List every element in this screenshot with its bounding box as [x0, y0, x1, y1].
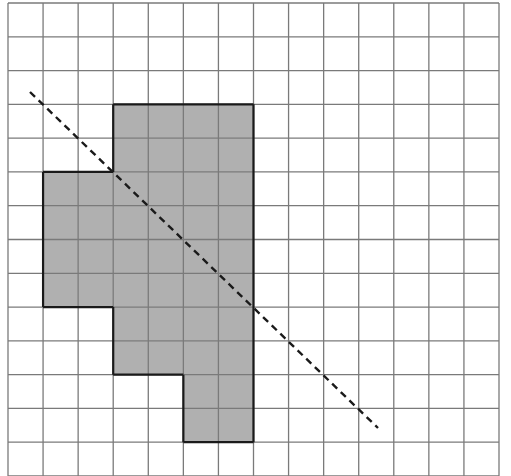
shaded-cell	[218, 206, 253, 240]
shaded-cell	[148, 240, 183, 274]
shaded-cell	[113, 341, 148, 375]
shaded-cell	[218, 104, 253, 138]
shaded-cell	[183, 341, 218, 375]
shaded-cell	[113, 138, 148, 172]
shaded-cell	[43, 172, 78, 206]
shaded-cell	[183, 408, 218, 442]
shaded-cell	[78, 240, 113, 274]
shaded-cell	[113, 104, 148, 138]
shaded-cell	[183, 307, 218, 341]
shaded-cell	[218, 408, 253, 442]
shaded-cell	[78, 273, 113, 307]
shaded-cell	[218, 240, 253, 274]
shaded-cell	[183, 375, 218, 409]
shaded-cell	[148, 273, 183, 307]
shaded-cell	[43, 206, 78, 240]
shaded-cell	[183, 104, 218, 138]
shaded-cell	[113, 273, 148, 307]
shaded-cell	[183, 273, 218, 307]
shaded-cell	[148, 104, 183, 138]
shaded-cell	[78, 172, 113, 206]
shaded-cell	[218, 307, 253, 341]
shaded-cell	[113, 307, 148, 341]
shaded-cell	[148, 341, 183, 375]
shaded-cell	[218, 172, 253, 206]
shaded-cell	[148, 172, 183, 206]
shaded-cell	[43, 240, 78, 274]
shaded-cell	[183, 138, 218, 172]
shaded-cell	[183, 172, 218, 206]
shaded-cell	[218, 138, 253, 172]
shaded-cell	[113, 240, 148, 274]
shaded-cell	[218, 341, 253, 375]
shaded-cell	[43, 273, 78, 307]
shaded-cell	[183, 206, 218, 240]
shaded-cell	[218, 375, 253, 409]
grid-diagram	[0, 0, 511, 476]
shaded-cell	[148, 138, 183, 172]
shaded-cell	[148, 307, 183, 341]
shaded-cell	[78, 206, 113, 240]
shaded-cell	[113, 206, 148, 240]
